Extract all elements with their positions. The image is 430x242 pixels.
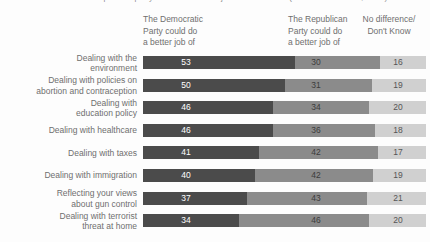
row-label: Dealing with theenvironment — [0, 52, 137, 73]
row-label: Dealing with immigration — [0, 170, 137, 181]
value-republican: 31 — [301, 79, 331, 92]
chart-row: Dealing with theenvironment533016 — [0, 56, 430, 69]
column-header-no-difference: No difference/ Don't Know — [355, 14, 423, 37]
stacked-bar: 344620 — [143, 214, 426, 227]
value-republican: 42 — [301, 169, 331, 182]
column-header-republican-line3: a better job of — [288, 37, 348, 49]
stacked-bar: 503119 — [143, 79, 426, 92]
value-democratic: 40 — [171, 169, 201, 182]
column-header-democratic-line2: Party could do — [143, 26, 203, 38]
column-header-no-difference-line1: No difference/ — [355, 14, 423, 26]
value-democratic: 41 — [171, 146, 201, 159]
stacked-bar: 463618 — [143, 124, 426, 137]
value-republican: 43 — [301, 192, 331, 205]
segment-democratic — [143, 79, 285, 92]
row-label: Reflecting your viewsabout gun control — [0, 188, 137, 209]
column-header-republican-line2: Party could do — [288, 26, 348, 38]
chart-row: Dealing with healthcare463618 — [0, 124, 430, 137]
value-no-difference: 19 — [383, 169, 413, 182]
stacked-bar: 463420 — [143, 101, 426, 114]
column-header-democratic-line3: a better job of — [143, 37, 203, 49]
chart-row: Dealing witheducation policy463420 — [0, 101, 430, 114]
row-label: Dealing witheducation policy — [0, 97, 137, 118]
value-no-difference: 18 — [383, 124, 413, 137]
chart-row: Reflecting your viewsabout gun control37… — [0, 192, 430, 205]
column-header-republican-line1: The Republican — [288, 14, 348, 26]
chart-rows: Dealing with theenvironment533016Dealing… — [0, 56, 430, 237]
column-header-democratic: The Democratic Party could do a better j… — [143, 14, 203, 49]
chart-row: Dealing with policies onabortion and con… — [0, 79, 430, 92]
value-no-difference: 20 — [383, 214, 413, 227]
value-democratic: 37 — [171, 192, 201, 205]
stacked-bar: 414217 — [143, 146, 426, 159]
value-no-difference: 16 — [383, 56, 413, 69]
row-label: Dealing with terroristthreat at home — [0, 210, 137, 231]
value-democratic: 34 — [171, 214, 201, 227]
stacked-bar: 404219 — [143, 169, 426, 182]
survey-chart-page: { "page": { "background": "#fdfdfd", "te… — [0, 0, 430, 242]
value-no-difference: 21 — [383, 192, 413, 205]
value-republican: 30 — [301, 56, 331, 69]
value-democratic: 46 — [171, 124, 201, 137]
value-democratic: 53 — [171, 56, 201, 69]
clipped-caption-text: Voters were asked which political party … — [8, 0, 400, 2]
segment-democratic — [143, 101, 273, 114]
chart-row: Dealing with terroristthreat at home3446… — [0, 214, 430, 227]
column-header-republican: The Republican Party could do a better j… — [288, 14, 348, 49]
stacked-bar: 533016 — [143, 56, 426, 69]
column-header-democratic-line1: The Democratic — [143, 14, 203, 26]
column-header-no-difference-line2: Don't Know — [355, 26, 423, 38]
value-no-difference: 17 — [383, 146, 413, 159]
row-label: Dealing with healthcare — [0, 125, 137, 136]
segment-democratic — [143, 124, 273, 137]
value-republican: 46 — [301, 214, 331, 227]
clipped-caption: Voters were asked which political party … — [8, 0, 400, 4]
value-republican: 34 — [301, 101, 331, 114]
row-label: Dealing with taxes — [0, 148, 137, 159]
chart-row: Dealing with taxes414217 — [0, 146, 430, 159]
value-democratic: 46 — [171, 101, 201, 114]
value-no-difference: 19 — [383, 79, 413, 92]
chart-row: Dealing with immigration404219 — [0, 169, 430, 182]
segment-democratic — [143, 146, 259, 159]
stacked-bar: 374321 — [143, 192, 426, 205]
segment-democratic — [143, 56, 295, 69]
value-democratic: 50 — [171, 79, 201, 92]
value-no-difference: 20 — [383, 101, 413, 114]
value-republican: 42 — [301, 146, 331, 159]
row-label: Dealing with policies onabortion and con… — [0, 75, 137, 96]
value-republican: 36 — [301, 124, 331, 137]
